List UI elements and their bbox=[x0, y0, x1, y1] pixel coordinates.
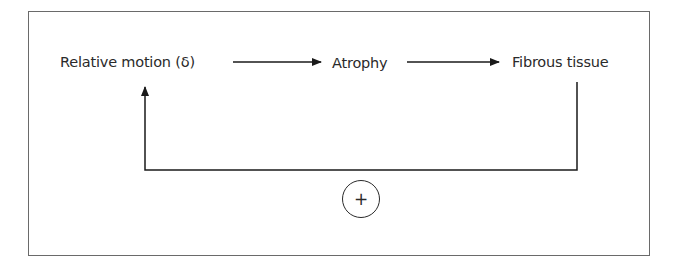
node-atrophy: Atrophy bbox=[332, 54, 387, 72]
diagram-connectors bbox=[0, 0, 679, 271]
node-fibrous-tissue: Fibrous tissue bbox=[512, 53, 609, 71]
positive-feedback-sign: + bbox=[342, 180, 380, 218]
plus-icon: + bbox=[354, 191, 368, 208]
node-relative-motion: Relative motion (δ) bbox=[60, 53, 195, 71]
feedback-loop-arrow bbox=[145, 82, 577, 170]
